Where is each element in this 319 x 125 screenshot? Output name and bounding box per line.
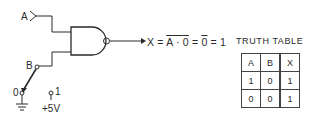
input-a-wire [36,16,71,32]
terminal-1 [49,91,53,95]
nand-gate-body [71,27,106,55]
header-a: A [242,54,261,72]
truth-table-title: TRUTH TABLE [236,36,303,46]
output-result: 1 [220,36,226,48]
input-a-arrow-icon [30,11,36,21]
truth-table-header-row: A B X [242,54,300,72]
input-b-label: B [26,61,33,71]
supply-label: +5V [42,104,60,114]
switch-0-label: 0 [13,88,19,98]
switch-lever [24,69,36,89]
switch-1-label: 1 [55,87,61,97]
terminal-b [35,65,39,69]
ground-icon [16,101,28,110]
header-x: X [280,54,300,72]
output-arrow-icon [141,38,146,44]
output-expression: X = A · 0 = 0 = 1 [147,36,226,48]
header-b: B [261,54,281,72]
input-b-wire [39,52,71,66]
nand-overbar-expression: A · 0 [166,36,189,48]
input-a-label: A [21,12,28,22]
table-row: 0 0 1 [242,90,300,108]
truth-table: A B X 1 0 1 0 0 1 [241,53,300,108]
table-row: 1 0 1 [242,72,300,90]
